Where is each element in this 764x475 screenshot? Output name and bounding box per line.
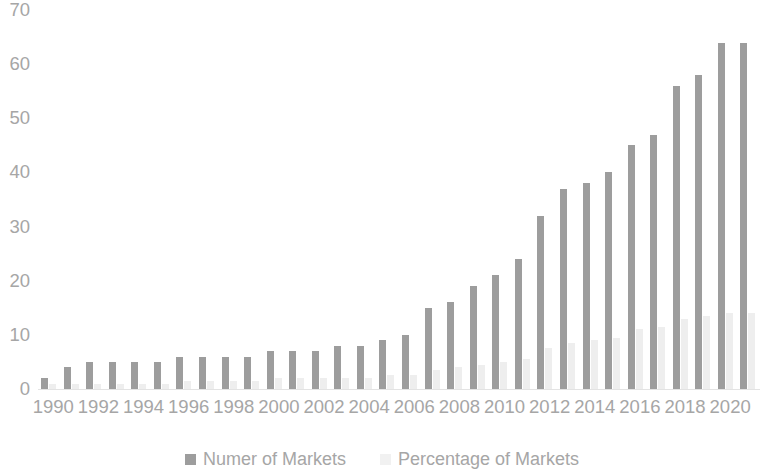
bar-percentage-of-markets [162,384,169,389]
bar-percentage-of-markets [591,340,598,389]
bar-percentage-of-markets [478,365,485,389]
bar-group [560,10,583,389]
bar-group [199,10,222,389]
bar-number-of-markets [537,216,544,389]
bar-group [64,10,87,389]
bar-percentage-of-markets [139,384,146,389]
bar-percentage-of-markets [94,384,101,389]
bar-percentage-of-markets [500,362,507,389]
bar-group [425,10,448,389]
legend-label: Percentage of Markets [398,449,579,470]
y-axis-tick-label: 30 [9,216,30,238]
bar-group [628,10,651,389]
x-axis-tick-label: 2014 [574,396,615,418]
bar-group [470,10,493,389]
bar-number-of-markets [650,135,657,389]
bar-percentage-of-markets [72,384,79,389]
bar-number-of-markets [718,43,725,390]
bar-number-of-markets [267,351,274,389]
bar-group [41,10,64,389]
legend-swatch-icon [185,454,196,465]
bar-number-of-markets [154,362,161,389]
bar-group [244,10,267,389]
bar-percentage-of-markets [658,327,665,389]
bar-group [740,10,763,389]
bar-number-of-markets [86,362,93,389]
bar-group [447,10,470,389]
bar-number-of-markets [109,362,116,389]
bar-percentage-of-markets [342,378,349,389]
bar-group [718,10,741,389]
x-axis-tick-label: 2020 [710,396,751,418]
bar-group [492,10,515,389]
bar-percentage-of-markets [613,338,620,389]
bar-group [267,10,290,389]
x-axis-tick-label: 2012 [529,396,570,418]
legend-item[interactable]: Numer of Markets [185,449,346,470]
bar-number-of-markets [425,308,432,389]
bar-number-of-markets [560,189,567,389]
bar-number-of-markets [583,183,590,389]
bar-number-of-markets [312,351,319,389]
bar-number-of-markets [402,335,409,389]
bar-percentage-of-markets [703,316,710,389]
x-axis: 1990199219941996199820002002200420062008… [38,396,760,430]
bar-number-of-markets [64,367,71,389]
x-axis-tick-label: 2002 [303,396,344,418]
bar-number-of-markets [244,357,251,389]
bar-group [222,10,245,389]
x-axis-tick-label: 2004 [349,396,390,418]
bar-group [312,10,335,389]
bar-number-of-markets [673,86,680,389]
y-axis-tick-label: 20 [9,270,30,292]
x-axis-tick-label: 1998 [213,396,254,418]
bar-number-of-markets [357,346,364,389]
legend-item[interactable]: Percentage of Markets [380,449,579,470]
bar-percentage-of-markets [49,384,56,389]
bar-percentage-of-markets [275,378,282,389]
bar-percentage-of-markets [207,381,214,389]
bar-percentage-of-markets [184,381,191,389]
bar-percentage-of-markets [433,370,440,389]
bar-percentage-of-markets [636,329,643,389]
bar-percentage-of-markets [545,348,552,389]
bar-group [357,10,380,389]
bar-group [176,10,199,389]
y-axis-tick-label: 60 [9,53,30,75]
y-axis-tick-label: 40 [9,161,30,183]
bar-group [109,10,132,389]
bar-group [650,10,673,389]
bars-layer [38,10,760,389]
bar-percentage-of-markets [297,378,304,389]
bar-group [334,10,357,389]
bar-group [86,10,109,389]
y-axis-tick-label: 50 [9,107,30,129]
bar-group [583,10,606,389]
bar-number-of-markets [470,286,477,389]
bar-percentage-of-markets [252,381,259,389]
bar-group [605,10,628,389]
x-axis-tick-label: 2000 [258,396,299,418]
y-axis-tick-label: 0 [20,378,30,400]
legend-label: Numer of Markets [203,449,346,470]
bar-group [695,10,718,389]
bar-percentage-of-markets [117,384,124,389]
bar-number-of-markets [515,259,522,389]
bar-number-of-markets [334,346,341,389]
bar-group [154,10,177,389]
x-axis-baseline [38,389,760,390]
bar-number-of-markets [176,357,183,389]
bar-group [515,10,538,389]
bar-number-of-markets [695,75,702,389]
x-axis-tick-label: 1990 [33,396,74,418]
bar-group [379,10,402,389]
bar-number-of-markets [199,357,206,389]
bar-number-of-markets [222,357,229,389]
bar-group [289,10,312,389]
x-axis-tick-label: 1996 [168,396,209,418]
bar-number-of-markets [41,378,48,389]
x-axis-tick-label: 2016 [619,396,660,418]
bar-group [673,10,696,389]
bar-number-of-markets [628,145,635,389]
bar-percentage-of-markets [455,367,462,389]
